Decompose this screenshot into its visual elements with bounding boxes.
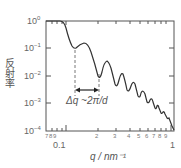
svg-text:4: 4 (127, 133, 131, 139)
svg-text:100: 100 (27, 15, 41, 26)
svg-text:5: 5 (137, 133, 141, 139)
svg-text:10−4: 10−4 (24, 125, 42, 136)
x-axis-label: q / nm⁻¹ (90, 151, 126, 162)
svg-text:10−1: 10−1 (24, 42, 42, 53)
svg-text:10−3: 10−3 (24, 97, 42, 108)
reflectivity-chart: 100 10−1 10−2 10−3 10−4 7 8 9 2 3 4 5 6 … (0, 0, 181, 168)
delta-q-arrow (75, 88, 99, 93)
x-label-1: 1 (170, 140, 175, 150)
plot-frame (46, 21, 174, 131)
delta-q-annotation: Δq ~2π/d (66, 95, 108, 106)
svg-text:10−2: 10−2 (24, 70, 42, 81)
svg-text:6: 6 (145, 133, 149, 139)
x-label-0.1: 0.1 (53, 140, 66, 150)
svg-text:9: 9 (53, 133, 57, 139)
x-ticks (52, 21, 171, 131)
y-tick-labels: 100 10−1 10−2 10−3 10−4 (24, 15, 42, 136)
svg-text:9: 9 (164, 133, 168, 139)
svg-text:8: 8 (158, 133, 162, 139)
svg-text:7: 7 (152, 133, 156, 139)
svg-text:2: 2 (95, 133, 99, 139)
svg-text:3: 3 (113, 133, 117, 139)
y-axis-label: 反射率 (2, 58, 14, 88)
reflectivity-curve (46, 21, 174, 130)
x-minor-labels: 7 8 9 2 3 4 5 6 7 8 9 (45, 133, 168, 139)
